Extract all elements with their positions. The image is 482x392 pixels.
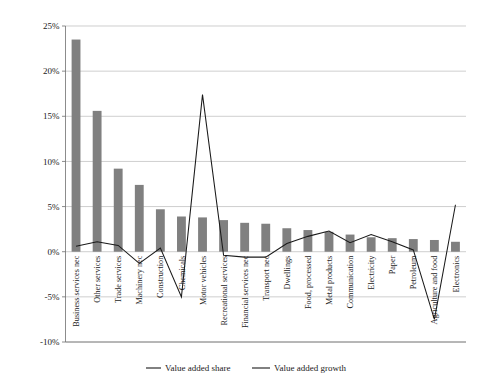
x-axis-category-label: Metal products [325,256,334,305]
y-axis-tick-label: 25% [43,21,60,31]
x-axis-category-label: Business services nec [72,255,81,326]
x-axis-category-label: Food, processed [304,256,313,309]
legend: Value added share Value added growth [146,363,346,373]
bar [72,40,81,252]
bar [451,242,460,252]
x-axis-category-label: Agriculture and food [430,256,439,325]
x-axis-category-label: Machinery nec [135,255,144,304]
bar [198,217,207,251]
bar [240,223,249,252]
x-axis-category-labels: Business services necOther servicesTrade… [72,255,460,328]
bar [430,240,439,252]
x-axis-category-label: Electricity [367,255,376,290]
bar [219,220,228,252]
bar [93,111,102,252]
bar [177,217,186,252]
legend-label-value-added-share: Value added share [165,363,230,373]
x-axis-category-label: Dwellings [283,256,292,290]
y-axis-tick-label: 0% [48,247,61,257]
legend-label-value-added-growth: Value added growth [274,363,346,373]
bar [114,169,123,252]
x-axis-category-label: Communication [346,256,355,309]
bar [367,237,376,251]
bar [261,224,270,252]
x-axis-category-label: Transport nec [262,255,271,300]
y-axis-tick-label: 5% [48,202,61,212]
y-axis-tick-label: -5% [45,292,60,302]
x-axis-category-label: Other services [93,256,102,303]
x-axis-category-label: Chemicals [178,256,187,291]
value-added-chart: 25%20%15%10%5%0%-5%-10% Business service… [0,0,482,392]
bar [282,228,291,251]
x-axis-category-label: Electronics [452,256,461,293]
x-axis-category-label: Paper [388,255,397,274]
x-axis-category-label: Petroleum [409,255,418,289]
y-axis-tick-label: 15% [43,111,60,121]
y-axis-tick-labels: 25%20%15%10%5%0%-5%-10% [40,21,66,347]
x-axis-category-label: Trade services [114,256,123,303]
x-axis-category-label: Construction [156,256,165,298]
y-axis-tick-label: 10% [43,157,60,167]
bar [325,232,334,252]
y-axis-tick-label: -10% [40,337,60,347]
x-axis-category-label: Financial services nec [241,255,250,328]
x-axis-category-label: Recreational services [220,256,229,326]
x-axis-category-label: Motor vehicles [199,256,208,305]
chart-container: 25%20%15%10%5%0%-5%-10% Business service… [0,0,482,392]
bar [303,230,312,252]
bar [135,185,144,252]
y-axis-tick-label: 20% [43,66,60,76]
bar [156,209,165,251]
